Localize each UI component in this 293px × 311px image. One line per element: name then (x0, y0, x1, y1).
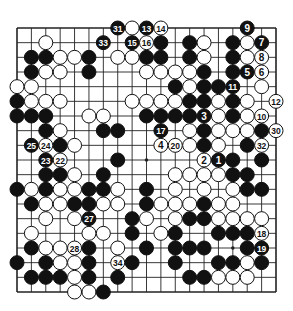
white-stone (39, 241, 53, 255)
white-stone (240, 109, 254, 123)
white-stone (68, 256, 82, 270)
black-stone (197, 124, 211, 138)
star-point (145, 158, 149, 162)
black-stone (53, 138, 67, 152)
numbered-move-12: 12 (269, 94, 283, 108)
white-stone (183, 65, 197, 79)
black-stone (197, 270, 211, 284)
white-stone (240, 50, 254, 64)
go-board-diagram: 1234567891011121314151617181920222324252… (0, 0, 293, 311)
black-stone (154, 36, 168, 50)
black-stone (82, 241, 96, 255)
move-number-label: 1 (216, 155, 222, 166)
numbered-move-31: 31 (111, 21, 125, 35)
white-stone (53, 241, 67, 255)
white-stone (24, 80, 38, 94)
black-stone (39, 168, 53, 182)
black-stone (53, 270, 67, 284)
white-stone (240, 270, 254, 284)
white-stone (68, 182, 82, 196)
white-stone (183, 80, 197, 94)
black-stone (82, 197, 96, 211)
numbered-move-33: 33 (96, 36, 110, 50)
numbered-move-20: 20 (168, 138, 182, 152)
move-number-label: 24 (41, 141, 51, 151)
move-number-label: 19 (257, 244, 267, 254)
white-stone (111, 197, 125, 211)
numbered-move-30: 30 (269, 124, 283, 138)
black-stone (96, 182, 110, 196)
white-stone (39, 36, 53, 50)
white-stone (168, 182, 182, 196)
black-stone (82, 182, 96, 196)
numbered-move-9: 9 (240, 21, 254, 35)
black-stone (140, 109, 154, 123)
move-number-label: 33 (99, 38, 109, 48)
white-stone (197, 168, 211, 182)
black-stone (111, 124, 125, 138)
black-stone (226, 36, 240, 50)
white-stone (226, 197, 240, 211)
move-number-label: 28 (70, 244, 80, 254)
move-number-label: 32 (257, 141, 267, 151)
black-stone (39, 50, 53, 64)
black-stone (226, 256, 240, 270)
black-stone (39, 109, 53, 123)
white-stone (24, 94, 38, 108)
black-stone (240, 226, 254, 240)
numbered-move-17: 17 (154, 124, 168, 138)
black-stone (82, 270, 96, 284)
numbered-move-13: 13 (140, 21, 154, 35)
white-stone (255, 212, 269, 226)
numbered-move-19: 19 (255, 241, 269, 255)
black-stone (10, 109, 24, 123)
black-stone (197, 65, 211, 79)
white-stone (53, 94, 67, 108)
move-number-label: 22 (55, 156, 65, 166)
numbered-move-4: 4 (154, 138, 168, 152)
black-stone (82, 256, 96, 270)
black-stone (197, 241, 211, 255)
white-stone (111, 50, 125, 64)
black-stone (24, 65, 38, 79)
numbered-move-6: 6 (255, 65, 269, 79)
black-stone (226, 109, 240, 123)
move-number-label: 12 (271, 97, 281, 107)
white-stone (154, 197, 168, 211)
move-number-label: 25 (27, 141, 37, 151)
black-stone (226, 153, 240, 167)
move-number-label: 3 (201, 111, 207, 122)
numbered-move-7: 7 (255, 36, 269, 50)
black-stone (24, 270, 38, 284)
move-number-label: 13 (142, 24, 152, 34)
black-stone (197, 80, 211, 94)
white-stone (96, 197, 110, 211)
move-number-label: 15 (127, 38, 137, 48)
white-stone (39, 212, 53, 226)
black-stone (183, 109, 197, 123)
move-number-label: 18 (257, 229, 267, 239)
black-stone (226, 94, 240, 108)
black-stone (10, 256, 24, 270)
black-stone (255, 153, 269, 167)
numbered-move-14: 14 (154, 21, 168, 35)
black-stone (197, 138, 211, 152)
black-stone (96, 168, 110, 182)
move-number-label: 8 (259, 52, 265, 63)
black-stone (240, 138, 254, 152)
black-stone (154, 109, 168, 123)
white-stone (68, 270, 82, 284)
white-stone (211, 138, 225, 152)
black-stone (68, 197, 82, 211)
white-stone (211, 212, 225, 226)
white-stone (24, 182, 38, 196)
black-stone (168, 226, 182, 240)
white-stone (39, 94, 53, 108)
move-number-label: 34 (113, 258, 123, 268)
numbered-move-34: 34 (111, 256, 125, 270)
black-stone (10, 94, 24, 108)
numbered-move-8: 8 (255, 50, 269, 64)
black-stone (24, 50, 38, 64)
black-stone (10, 182, 24, 196)
black-stone (197, 212, 211, 226)
